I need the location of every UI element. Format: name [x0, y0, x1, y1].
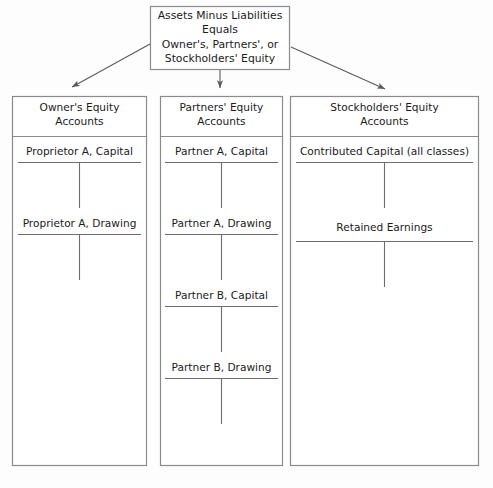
column-owners-equity: Owner's Equity Accounts Proprietor A, Ca…	[13, 97, 147, 466]
t-account-label: Contributed Capital (all classes)	[300, 145, 469, 157]
equity-accounts-diagram: Assets Minus Liabilities Equals Owner's,…	[0, 0, 493, 488]
diagram-canvas: Assets Minus Liabilities Equals Owner's,…	[0, 0, 493, 488]
t-account-label: Retained Earnings	[336, 221, 432, 233]
partners-header-line-1: Partners' Equity	[180, 101, 264, 113]
t-account-label: Partner A, Capital	[175, 145, 268, 157]
t-account-label: Partner B, Drawing	[172, 361, 272, 373]
root-line-2: Equals	[202, 23, 238, 36]
t-account-label: Proprietor A, Drawing	[23, 217, 137, 229]
partners-header-line-2: Accounts	[197, 115, 245, 127]
t-account-label: Partner A, Drawing	[172, 217, 272, 229]
column-partners-equity: Partners' Equity Accounts Partner A, Cap…	[161, 97, 283, 466]
column-stockholders-equity: Stockholders' Equity Accounts Contribute…	[291, 97, 479, 466]
root-line-1: Assets Minus Liabilities	[158, 9, 283, 22]
t-account-label: Proprietor A, Capital	[26, 145, 133, 157]
owners-header-line-2: Accounts	[55, 115, 103, 127]
t-account-label: Partner B, Capital	[175, 289, 268, 301]
stockholders-header-line-2: Accounts	[360, 115, 408, 127]
root-line-3: Owner's, Partners', or	[162, 38, 279, 51]
arrow-to-owners-equity	[72, 44, 150, 87]
owners-header-line-1: Owner's Equity	[40, 101, 120, 113]
root-equation-box: Assets Minus Liabilities Equals Owner's,…	[151, 7, 290, 70]
root-line-4: Stockholders' Equity	[165, 52, 276, 65]
arrow-to-stockholders-equity	[291, 47, 385, 89]
stockholders-header-line-1: Stockholders' Equity	[330, 101, 438, 113]
